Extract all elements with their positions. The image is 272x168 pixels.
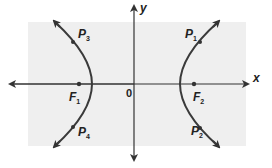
point-p2-label: P2 [191,125,203,139]
hyperbola-diagram: y x 0 F1 F2 P1 P2 P3 P4 [0,0,272,168]
focus-f1-label: F1 [69,91,80,105]
point-p1-dot [198,40,202,44]
x-axis-label: x [253,72,260,84]
diagram-canvas [0,0,272,168]
point-p3-dot [71,40,75,44]
origin-label: 0 [126,87,132,99]
point-p3-label: P3 [78,28,90,42]
point-p1-label: P1 [185,28,197,42]
focus-f2-label: F2 [193,91,204,105]
point-p4-dot [71,125,75,129]
focus-f2-dot [192,82,196,86]
focus-f1-dot [77,82,81,86]
y-axis-label: y [140,2,147,14]
point-p4-label: P4 [78,126,90,140]
